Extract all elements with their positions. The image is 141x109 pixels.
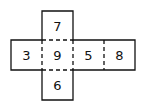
- face-left: 3: [22, 48, 30, 63]
- face-bottom: 6: [53, 78, 61, 93]
- face-far-right: 8: [115, 48, 123, 63]
- fold-lines: [42, 40, 104, 70]
- face-right: 5: [84, 48, 92, 63]
- cube-net-diagram: 7 3 9 5 8 6: [0, 0, 141, 109]
- face-top: 7: [53, 19, 61, 34]
- face-center: 9: [53, 48, 61, 63]
